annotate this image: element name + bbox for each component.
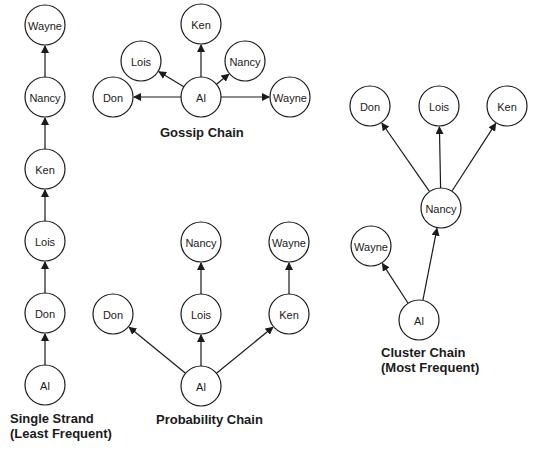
probability-chain-title: Probability Chain	[156, 412, 263, 427]
probability-chain-node-al: Al	[181, 366, 221, 406]
node-label: Wayne	[354, 241, 388, 253]
node-label: Ken	[191, 19, 211, 31]
cluster-chain-node-don: Don	[350, 86, 390, 126]
cluster-chain-node-nancy: Nancy	[421, 188, 461, 228]
node-label: Nancy	[185, 237, 217, 249]
single-strand-node-don: Don	[25, 293, 65, 333]
cluster-chain-label: Cluster Chain (Most Frequent)	[381, 345, 479, 375]
node-label: Lois	[35, 236, 56, 248]
cluster-chain-node-ken: Ken	[487, 86, 527, 126]
probability-chain-node-nancy: Nancy	[181, 222, 221, 262]
gossip-chain-edge-al-to-lois	[159, 72, 184, 87]
node-label: Al	[414, 315, 424, 327]
cluster-chain-edge-nancy-to-lois	[439, 127, 440, 188]
single-strand-label: Single Strand (Least Frequent)	[10, 411, 112, 441]
cluster-chain-title: Cluster Chain	[381, 345, 479, 360]
cluster-chain-node-al: Al	[399, 300, 439, 340]
cluster-chain-edge-al-to-wayne	[382, 264, 408, 304]
node-label: Ken	[279, 309, 299, 321]
gossip-chain-node-lois: Lois	[121, 41, 161, 81]
cluster-chain-edge-al-to-nancy	[423, 229, 437, 301]
probability-chain-node-don: Don	[93, 294, 133, 334]
node-label: Wayne	[28, 20, 62, 32]
cluster-chain-edge-nancy-to-don	[382, 123, 430, 191]
node-label: Nancy	[29, 92, 61, 104]
node-label: Ken	[497, 101, 517, 113]
single-strand-title: Single Strand	[10, 411, 112, 426]
gossip-chain-node-nancy: Nancy	[225, 41, 265, 81]
node-label: Nancy	[425, 203, 457, 215]
gossip-chain-node-al: Al	[181, 77, 221, 117]
gossip-chain-title: Gossip Chain	[160, 125, 244, 140]
node-label: Lois	[191, 309, 212, 321]
node-label: Al	[196, 381, 206, 393]
single-strand-subtitle: (Least Frequent)	[10, 426, 112, 441]
gossip-chain-edge-al-to-nancy	[216, 74, 228, 84]
node-label: Nancy	[229, 56, 261, 68]
node-label: Lois	[131, 56, 152, 68]
cluster-chain-subtitle: (Most Frequent)	[381, 360, 479, 375]
single-strand-node-lois: Lois	[25, 221, 65, 261]
node-label: Wayne	[272, 237, 306, 249]
probability-chain-label: Probability Chain	[156, 412, 263, 427]
gossip-chain-node-don: Don	[93, 77, 133, 117]
node-label: Don	[103, 92, 123, 104]
single-strand-node-ken: Ken	[25, 149, 65, 189]
node-label: Al	[40, 380, 50, 392]
probability-chain-node-lois: Lois	[181, 294, 221, 334]
cluster-chain-edge-nancy-to-ken	[452, 124, 496, 192]
node-label: Don	[103, 309, 123, 321]
node-label: Don	[35, 308, 55, 320]
single-strand-node-nancy: Nancy	[25, 77, 65, 117]
gossip-chain-label: Gossip Chain	[160, 125, 244, 140]
node-label: Wayne	[273, 92, 307, 104]
node-label: Don	[360, 101, 380, 113]
diagram-canvas: WayneNancyKenLoisDonAlKenLoisNancyDonAlW…	[0, 0, 545, 450]
probability-chain-edge-al-to-don	[129, 327, 185, 373]
probability-chain-node-ken: Ken	[269, 294, 309, 334]
node-label: Al	[196, 92, 206, 104]
cluster-chain-node-wayne: Wayne	[351, 226, 391, 266]
gossip-chain-node-wayne: Wayne	[270, 77, 310, 117]
single-strand-node-al: Al	[25, 365, 65, 405]
probability-chain-node-wayne: Wayne	[269, 222, 309, 262]
node-label: Lois	[429, 101, 450, 113]
probability-chain-edge-al-to-ken	[216, 327, 272, 373]
single-strand-node-wayne: Wayne	[25, 5, 65, 45]
gossip-chain-node-ken: Ken	[181, 4, 221, 44]
cluster-chain-node-lois: Lois	[419, 86, 459, 126]
node-label: Ken	[35, 164, 55, 176]
